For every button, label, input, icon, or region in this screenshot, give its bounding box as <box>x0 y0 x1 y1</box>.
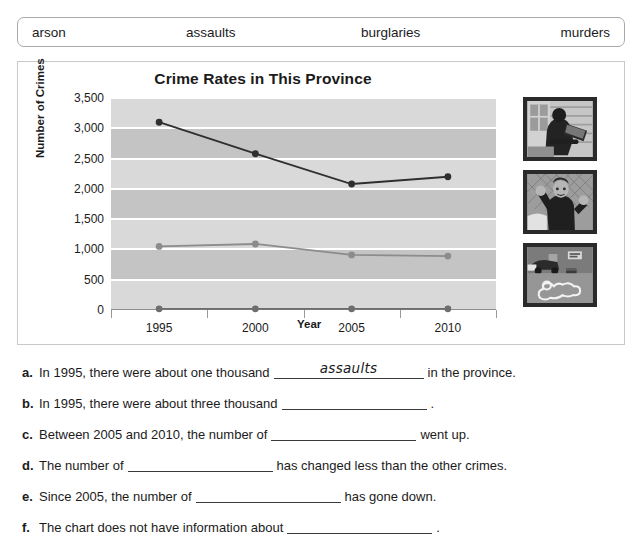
chart-series-layer <box>111 98 496 310</box>
question-text-before: Between 2005 and 2010, the number of <box>39 427 267 442</box>
chart-x-tick-mark <box>111 310 112 318</box>
question-text-before: The chart does not have information abou… <box>39 520 283 535</box>
chart-point-murders-2010 <box>444 305 451 312</box>
chart-y-tick-label: 1,500 <box>74 212 104 226</box>
question-text-before: In 1995, there were about three thousand <box>39 396 278 411</box>
question-row: f.The chart does not have information ab… <box>17 512 629 543</box>
chart-point-murders-2005 <box>348 305 355 312</box>
chart-y-tick-label: 3,500 <box>74 91 104 105</box>
answer-blank[interactable]: assaults <box>274 366 424 379</box>
question-text-before: The number of <box>39 458 124 473</box>
chart-point-murders-2000 <box>252 305 259 312</box>
answer-blank[interactable] <box>271 428 416 441</box>
word-bank-inner: arson assaults burglaries murders <box>18 18 624 46</box>
chart-plot-area: 05001,0001,5002,0002,5003,0003,500 19952… <box>111 98 496 310</box>
question-letter: f. <box>17 520 39 535</box>
assault-photo <box>523 170 597 234</box>
question-letter: e. <box>17 489 39 504</box>
chart-x-tick-mark <box>304 310 305 318</box>
question-row: c.Between 2005 and 2010, the number ofwe… <box>17 419 629 450</box>
question-text-after: in the province. <box>428 365 516 380</box>
question-text-after: has gone down. <box>345 489 437 504</box>
word-bank-item-murders[interactable]: murders <box>560 25 610 40</box>
chart-x-tick-label: 2010 <box>435 321 462 335</box>
chart-point-burglaries-2000 <box>252 150 259 157</box>
chart-x-axis-label: Year <box>297 318 321 330</box>
question-letter: c. <box>17 427 39 442</box>
question-letter: d. <box>17 458 39 473</box>
question-row: d.The number ofhas changed less than the… <box>17 450 629 481</box>
chart-title: Crime Rates in This Province <box>18 70 624 88</box>
question-text-after: went up. <box>420 427 469 442</box>
chart-x-tick-label: 2000 <box>242 321 269 335</box>
chart-x-tick-label: 2005 <box>338 321 365 335</box>
question-letter: a. <box>17 365 39 380</box>
chart-y-tick-label: 0 <box>97 303 104 317</box>
chart-point-assaults-1995 <box>156 243 163 250</box>
chart-y-tick-label: 2,500 <box>74 152 104 166</box>
chart-y-axis-label: Number of Crimes <box>34 142 46 158</box>
question-row: a.In 1995, there were about one thousand… <box>17 357 629 388</box>
chart-x-tick-mark <box>400 310 401 318</box>
chart-panel: Crime Rates in This Province Number of C… <box>17 61 625 345</box>
chart-point-assaults-2010 <box>444 253 451 260</box>
chart-y-tick-label: 2,000 <box>74 182 104 196</box>
question-text-before: In 1995, there were about one thousand <box>39 365 270 380</box>
question-row: b.In 1995, there were about three thousa… <box>17 388 629 419</box>
chart-point-murders-1995 <box>156 305 163 312</box>
chart-y-tick-label: 3,000 <box>74 121 104 135</box>
chart-x-tick-mark <box>207 310 208 318</box>
chart-point-burglaries-1995 <box>156 119 163 126</box>
chart-point-assaults-2000 <box>252 241 259 248</box>
word-bank-item-burglaries[interactable]: burglaries <box>361 25 420 40</box>
chart-point-assaults-2005 <box>348 251 355 258</box>
chart-point-burglaries-2010 <box>444 173 451 180</box>
chart-y-tick-label: 1,000 <box>74 242 104 256</box>
worksheet-page: arson assaults burglaries murders Crime … <box>0 0 642 543</box>
word-bank: arson assaults burglaries murders <box>17 17 625 47</box>
chart-line-assaults <box>159 244 448 256</box>
answer-blank[interactable] <box>196 490 341 503</box>
answer-blank[interactable] <box>282 397 427 410</box>
chart-point-burglaries-2005 <box>348 181 355 188</box>
question-row: e.Since 2005, the number ofhas gone down… <box>17 481 629 512</box>
question-text-after: has changed less than the other crimes. <box>277 458 508 473</box>
murder-photo <box>523 243 597 307</box>
questions-list: a.In 1995, there were about one thousand… <box>17 357 629 543</box>
question-letter: b. <box>17 396 39 411</box>
chart-x-tick-mark <box>496 310 497 318</box>
answer-text: assaults <box>274 360 424 376</box>
word-bank-item-assaults[interactable]: assaults <box>186 25 236 40</box>
chart-line-burglaries <box>159 122 448 184</box>
word-bank-item-arson[interactable]: arson <box>32 25 66 40</box>
question-text-before: Since 2005, the number of <box>39 489 192 504</box>
burglary-photo <box>523 97 597 161</box>
question-text-after: . <box>436 520 440 535</box>
question-text-after: . <box>431 396 435 411</box>
chart-y-tick-label: 500 <box>84 273 104 287</box>
chart-x-tick-label: 1995 <box>146 321 173 335</box>
answer-blank[interactable] <box>287 521 432 534</box>
answer-blank[interactable] <box>128 459 273 472</box>
